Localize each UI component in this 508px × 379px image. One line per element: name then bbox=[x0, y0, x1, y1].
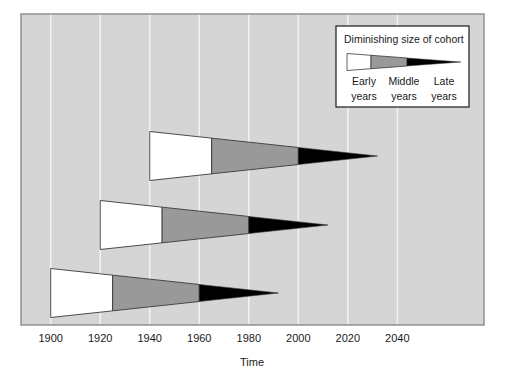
wedge-segment-early-years bbox=[100, 201, 162, 250]
legend-swatch-early-years bbox=[347, 54, 371, 71]
legend-label-late-line2: years bbox=[431, 90, 457, 102]
legend-title: Diminishing size of cohort bbox=[344, 33, 464, 45]
x-tick-label-2000: 2000 bbox=[286, 332, 310, 344]
legend-label-middle-line2: years bbox=[391, 90, 417, 102]
cohort-diagram-figure: Diminishing size of cohort EarlyyearsMid… bbox=[0, 0, 508, 379]
legend-label-early-line2: years bbox=[351, 90, 377, 102]
x-tick-label-2020: 2020 bbox=[336, 332, 360, 344]
legend-swatch-middle-years bbox=[371, 55, 407, 68]
legend: Diminishing size of cohort EarlyyearsMid… bbox=[336, 26, 469, 107]
x-axis-title: Time bbox=[240, 356, 264, 368]
cohort-chart-svg: Diminishing size of cohort EarlyyearsMid… bbox=[0, 0, 508, 379]
x-tick-label-1960: 1960 bbox=[187, 332, 211, 344]
x-tick-label-1920: 1920 bbox=[88, 332, 112, 344]
x-tick-label-1900: 1900 bbox=[38, 332, 62, 344]
x-tick-label-1980: 1980 bbox=[237, 332, 261, 344]
wedge-segment-early-years bbox=[150, 132, 212, 181]
wedge-segment-early-years bbox=[51, 269, 113, 318]
legend-label-middle-line1: Middle bbox=[389, 75, 420, 87]
x-tick-label-2040: 2040 bbox=[385, 332, 409, 344]
legend-label-early-line1: Early bbox=[352, 75, 377, 87]
x-tick-label-1940: 1940 bbox=[138, 332, 162, 344]
legend-label-late-line1: Late bbox=[434, 75, 455, 87]
